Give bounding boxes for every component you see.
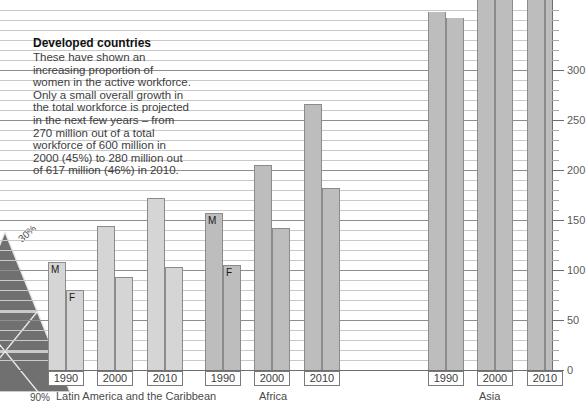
bar-africa-1990-male: M <box>205 213 223 371</box>
y-axis-label-300: 300 <box>567 65 585 76</box>
bar-latin-america-2000-male <box>97 226 115 371</box>
y-axis-label-200: 200 <box>567 165 585 176</box>
year-box-latin-america-2000: 2000 <box>97 371 133 386</box>
y-tick-minor <box>552 30 559 31</box>
y-tick-100 <box>552 270 564 271</box>
y-tick-minor <box>552 80 559 81</box>
bar-latin-america-2000-female <box>115 277 133 371</box>
bar-latin-america-2010-male <box>147 198 165 371</box>
gridline-minor <box>0 20 552 21</box>
y-tick-50 <box>552 320 564 321</box>
year-box-latin-america-2010: 2010 <box>147 371 183 386</box>
region-label-africa: Africa <box>259 390 287 402</box>
caption-body: These have shown an increasing proportio… <box>33 51 193 177</box>
y-axis <box>552 0 562 371</box>
y-tick-minor <box>552 110 559 111</box>
y-tick-minor <box>552 340 559 341</box>
y-tick-minor <box>552 290 559 291</box>
y-axis-label-100: 100 <box>567 265 585 276</box>
y-tick-minor <box>552 100 559 101</box>
year-box-africa-2000: 2000 <box>254 371 290 386</box>
y-tick-minor <box>552 180 559 181</box>
y-tick-minor <box>552 350 559 351</box>
y-tick-minor <box>552 160 559 161</box>
bar-africa-2000-male <box>254 165 272 371</box>
y-tick-minor <box>552 230 559 231</box>
gridline-minor <box>0 200 552 201</box>
y-tick-minor <box>552 190 559 191</box>
bar-letter-female: F <box>226 268 232 278</box>
y-axis-label-250: 250 <box>567 115 585 126</box>
y-tick-minor <box>552 300 559 301</box>
year-box-asia-1990: 1990 <box>428 371 464 386</box>
y-tick-minor <box>552 260 559 261</box>
y-tick-minor <box>552 240 559 241</box>
gridline-minor <box>0 210 552 211</box>
bar-letter-male: M <box>208 216 216 226</box>
y-tick-minor <box>552 330 559 331</box>
y-tick-minor <box>552 50 559 51</box>
y-tick-minor <box>552 200 559 201</box>
y-axis-label-150: 150 <box>567 215 585 226</box>
bar-asia-1990-female <box>446 18 464 371</box>
y-tick-minor <box>552 150 559 151</box>
bar-africa-2000-female <box>272 228 290 371</box>
bar-latin-america-1990-female: F <box>66 290 84 371</box>
bar-africa-2010-male <box>304 104 322 371</box>
year-box-asia-2000: 2000 <box>477 371 513 386</box>
gridline-major-150 <box>0 220 552 221</box>
pyramid-label-90-percent: 90% <box>30 392 50 403</box>
y-tick-minor <box>552 40 559 41</box>
y-tick-minor <box>552 60 559 61</box>
region-label-asia: Asia <box>479 390 500 402</box>
bar-africa-2010-female <box>322 188 340 371</box>
bar-asia-2010-male <box>527 0 545 371</box>
bar-latin-america-2010-female <box>165 267 183 371</box>
gridline-minor <box>0 30 552 31</box>
y-axis-label-50: 50 <box>567 315 579 326</box>
caption-heading: Developed countries <box>33 36 193 50</box>
infographic-canvas: 30% 90% <box>0 0 588 403</box>
bar-africa-1990-female: F <box>223 265 241 371</box>
year-box-latin-america-1990: 1990 <box>48 371 84 386</box>
bar-letter-female: F <box>69 293 75 303</box>
bar-asia-2000-female <box>495 0 513 371</box>
bar-letter-male: M <box>51 265 59 275</box>
y-tick-minor <box>552 90 559 91</box>
y-axis-label-0: 0 <box>567 365 573 376</box>
y-tick-minor <box>552 140 559 141</box>
y-tick-250 <box>552 120 564 121</box>
gridline-minor <box>0 190 552 191</box>
year-box-asia-2010: 2010 <box>527 371 563 386</box>
bar-asia-2000-male <box>477 0 495 371</box>
y-tick-minor <box>552 10 559 11</box>
y-tick-minor <box>552 310 559 311</box>
y-tick-minor <box>552 130 559 131</box>
gridline-minor <box>0 10 552 11</box>
y-tick-minor <box>552 280 559 281</box>
y-tick-200 <box>552 170 564 171</box>
region-label-latin-america: Latin America and the Caribbean <box>56 390 216 402</box>
y-tick-minor <box>552 210 559 211</box>
y-tick-minor <box>552 20 559 21</box>
year-box-africa-2010: 2010 <box>304 371 340 386</box>
caption-block: Developed countries These have shown an … <box>33 36 193 177</box>
y-tick-minor <box>552 250 559 251</box>
year-box-africa-1990: 1990 <box>205 371 241 386</box>
y-tick-300 <box>552 70 564 71</box>
y-tick-minor <box>552 360 559 361</box>
bar-asia-1990-male <box>428 12 446 371</box>
bar-asia-2010-female <box>545 0 552 371</box>
y-tick-150 <box>552 220 564 221</box>
gridline-minor <box>0 180 552 181</box>
bar-latin-america-1990-male: M <box>48 262 66 371</box>
